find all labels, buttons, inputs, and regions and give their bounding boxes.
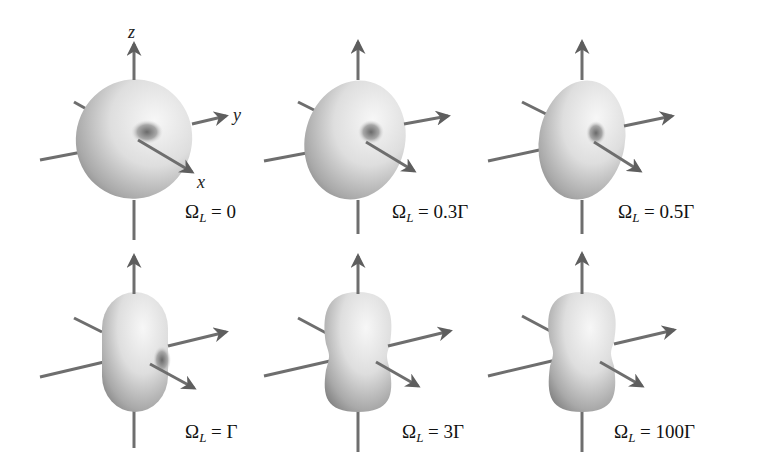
- torus-surface: [291, 69, 419, 211]
- z-axis-label: z: [127, 22, 135, 42]
- panel-label: ΩL = 0.5Γ: [618, 201, 694, 225]
- diagram-canvas: z y x ΩL = 0 ΩL = 0.3Γ ΩL = 0.5Γ: [0, 0, 760, 468]
- panel-label: ΩL = 0.3Γ: [392, 201, 468, 225]
- x-axis-label: x: [196, 172, 205, 192]
- torus-surface: [60, 64, 207, 214]
- y-axis-negative: [40, 152, 82, 160]
- x-axis-negative: [522, 102, 546, 114]
- y-axis-arrow: [614, 330, 674, 344]
- y-axis-negative: [264, 361, 330, 376]
- x-axis-negative: [298, 318, 328, 334]
- y-axis-arrow: [192, 116, 226, 124]
- torus-surface: [529, 73, 635, 206]
- y-axis-label: y: [231, 105, 241, 125]
- peanut-surface: [325, 292, 392, 412]
- panel-label: ΩL = Γ: [185, 421, 238, 445]
- y-axis-negative: [488, 149, 544, 161]
- torus-hole: [358, 120, 384, 144]
- x-axis-negative: [74, 318, 102, 332]
- panel-omega-0.5gamma: ΩL = 0.5Γ: [488, 42, 694, 234]
- panel-label: ΩL = 3Γ: [402, 421, 464, 445]
- panel-omega-0.3gamma: ΩL = 0.3Γ: [264, 42, 468, 234]
- peanut-surface: [548, 292, 616, 412]
- x-axis-negative: [522, 316, 552, 332]
- y-axis-arrow: [624, 116, 672, 126]
- y-axis-negative: [40, 362, 104, 377]
- y-axis-arrow: [168, 332, 226, 346]
- panel-label: ΩL = 100Γ: [614, 421, 695, 445]
- y-axis-arrow: [388, 331, 450, 346]
- torus-hole: [131, 120, 163, 144]
- torus-hole: [586, 121, 606, 145]
- panel-omega-gamma: ΩL = Γ: [40, 256, 238, 448]
- panel-omega-3gamma: ΩL = 3Γ: [264, 256, 464, 452]
- panel-omega-0: z y x ΩL = 0: [40, 22, 241, 240]
- y-axis-negative: [488, 360, 556, 376]
- y-axis-arrow: [404, 116, 448, 124]
- panel-label: ΩL = 0: [185, 201, 236, 225]
- panel-omega-100gamma: ΩL = 100Γ: [488, 254, 695, 452]
